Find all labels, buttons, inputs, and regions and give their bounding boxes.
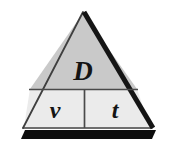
denominator-label-speed: v bbox=[38, 98, 72, 122]
shadow-band bbox=[21, 130, 156, 139]
numerator-label-distance: D bbox=[62, 58, 104, 85]
formula-triangle-diagram: D v t bbox=[0, 0, 176, 147]
denominator-label-time: t bbox=[98, 98, 132, 122]
